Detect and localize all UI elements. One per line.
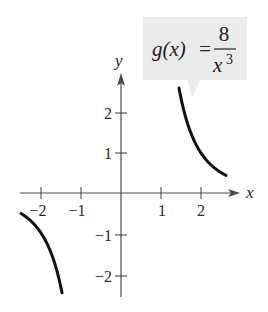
formula-equals: =	[199, 37, 211, 61]
formula-exponent: 3	[226, 52, 233, 67]
graph-canvas: g(x) = 8 x 3 x −2 −1 1 2 y 2 1 −1 −2	[0, 0, 268, 312]
x-tick-label: 2	[197, 202, 205, 219]
curve-positive-branch	[179, 88, 226, 175]
x-tick-label: −2	[29, 202, 46, 219]
x-tick-label: −1	[68, 202, 85, 219]
x-axis-label: x	[245, 183, 254, 202]
formula-lhs: g(x)	[152, 37, 186, 61]
y-axis-label: y	[113, 51, 123, 70]
y-tick-label: 1	[104, 145, 112, 162]
formula-numerator: 8	[219, 22, 230, 46]
curve-negative-branch	[21, 213, 62, 292]
y-tick-label: −2	[95, 268, 112, 285]
x-tick-label: 1	[158, 202, 166, 219]
y-tick-label: 2	[104, 105, 112, 122]
y-axis: y 2 1 −1 −2	[95, 51, 127, 297]
x-axis: x −2 −1 1 2	[20, 183, 254, 219]
formula-denominator: x	[212, 53, 223, 77]
y-tick-label: −1	[95, 227, 112, 244]
function-callout: g(x) = 8 x 3	[143, 17, 247, 98]
